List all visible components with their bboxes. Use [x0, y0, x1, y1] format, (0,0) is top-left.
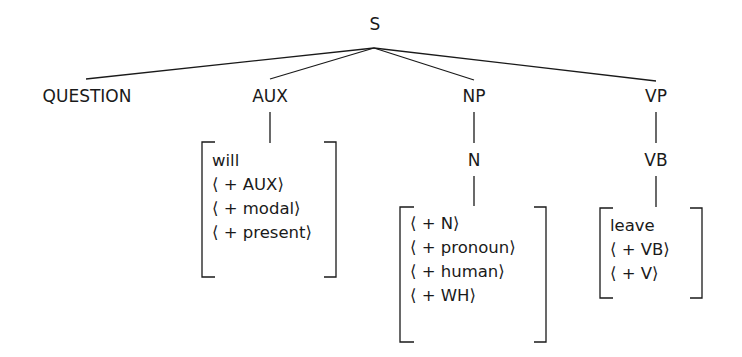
feature-item: ⟨ + present⟩ — [212, 221, 312, 245]
node-s: S — [370, 14, 381, 34]
feature-item: ⟨ + VB⟩ — [610, 238, 670, 262]
edge-s-np — [374, 48, 474, 80]
aux-right-bracket — [324, 142, 336, 277]
edge-s-aux — [270, 48, 374, 79]
feature-item: will — [212, 149, 312, 173]
node-vb: VB — [644, 150, 667, 170]
node-aux: AUX — [252, 86, 288, 106]
node-np: NP — [463, 86, 486, 106]
aux-feature-matrix: will ⟨ + AUX⟩ ⟨ + modal⟩ ⟨ + present⟩ — [212, 149, 312, 245]
edge-s-question — [86, 48, 374, 79]
feature-item: ⟨ + N⟩ — [410, 212, 516, 236]
vp-right-bracket — [690, 208, 702, 298]
node-n: N — [468, 150, 481, 170]
feature-item: leave — [610, 214, 670, 238]
feature-item: ⟨ + AUX⟩ — [212, 173, 312, 197]
feature-item: ⟨ + V⟩ — [610, 262, 670, 286]
vp-feature-matrix: leave ⟨ + VB⟩ ⟨ + V⟩ — [610, 214, 670, 286]
feature-item: ⟨ + human⟩ — [410, 260, 516, 284]
np-right-bracket — [534, 207, 546, 342]
node-question: QUESTION — [43, 86, 132, 106]
feature-item: ⟨ + WH⟩ — [410, 284, 516, 308]
feature-item: ⟨ + modal⟩ — [212, 197, 312, 221]
node-vp: VP — [645, 86, 667, 106]
edge-s-vp — [374, 48, 656, 81]
feature-item: ⟨ + pronoun⟩ — [410, 236, 516, 260]
tree-edges — [0, 0, 742, 357]
np-feature-matrix: ⟨ + N⟩ ⟨ + pronoun⟩ ⟨ + human⟩ ⟨ + WH⟩ — [410, 212, 516, 308]
